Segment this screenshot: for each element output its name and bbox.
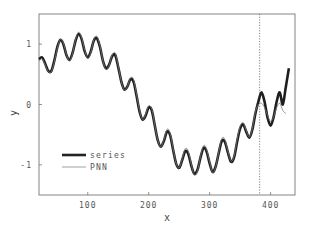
x-tick-label: 200 (140, 201, 157, 210)
y-tick-label: -1 (20, 161, 32, 170)
legend: series PNN (62, 151, 126, 172)
legend-label-series: series (90, 151, 126, 160)
series-line (39, 34, 289, 174)
x-axis-label: x (164, 212, 170, 223)
y-tick-label: 1 (26, 40, 32, 49)
series-layer (39, 14, 289, 195)
y-tick-label: 0 (26, 101, 32, 110)
x-tick-label: 100 (79, 201, 96, 210)
x-tick-label: 400 (262, 201, 279, 210)
legend-label-pnn: PNN (90, 163, 108, 172)
x-tick-label: 300 (201, 201, 218, 210)
line-chart: 100200300400-101 x y series PNN (0, 0, 310, 232)
y-axis-label: y (8, 110, 19, 116)
